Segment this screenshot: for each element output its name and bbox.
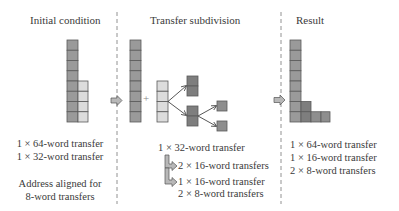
block-arrow-icon xyxy=(111,96,122,106)
initial-32-word-column xyxy=(78,81,88,122)
subdivision-caption-2x16: 2 × 16-word transfers xyxy=(178,159,269,172)
panel-title-initial: Initial condition xyxy=(30,14,101,26)
initial-64-word-column xyxy=(67,40,78,122)
result-16-word-block xyxy=(301,102,311,123)
subdivision-caption-2x8: 2 × 8-word transfers xyxy=(178,187,264,200)
caption: 1 × 32-word transfer xyxy=(10,150,110,163)
caption: 1 × 64-word transfer xyxy=(290,138,377,151)
8-word-blocks xyxy=(217,101,227,131)
result-captions: 1 × 64-word transfer 1 × 16-word transfe… xyxy=(290,138,377,177)
plus-sign: + xyxy=(143,92,149,104)
result-8-word-blocks xyxy=(311,112,330,122)
bent-arrow-icons xyxy=(165,155,177,187)
result-64-word-column xyxy=(290,40,301,122)
initial-captions: 1 × 64-word transfer 1 × 32-word transfe… xyxy=(10,137,110,163)
caption: 1 × 64-word transfer xyxy=(10,137,110,150)
subdivision-64-word-column xyxy=(130,40,141,122)
subdivision-caption-32: 1 × 32-word transfer xyxy=(158,141,245,154)
panel-title-result: Result xyxy=(296,14,324,26)
panel-title-subdivision: Transfer subdivision xyxy=(150,14,240,26)
caption: 2 × 8-word transfers xyxy=(290,164,377,177)
note-line: Address aligned for xyxy=(10,177,110,190)
caption: 1 × 16-word transfer xyxy=(290,151,377,164)
initial-note: Address aligned for 8-word transfers xyxy=(10,177,110,203)
block-arrow-icon xyxy=(274,95,285,105)
note-line: 8-word transfers xyxy=(10,190,110,203)
subdivision-32-word-column xyxy=(157,81,168,122)
16-word-blocks xyxy=(187,76,198,126)
